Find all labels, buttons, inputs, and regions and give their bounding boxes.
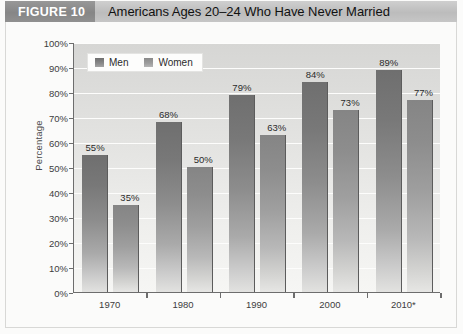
x-tick-mark xyxy=(293,293,295,298)
bar-women-2000: 73% xyxy=(333,110,359,293)
y-tick-label: 40% xyxy=(8,188,68,199)
y-tick-label: 80% xyxy=(8,88,68,99)
y-tick-mark xyxy=(69,168,73,169)
bars-layer: 55%35%68%50%79%63%84%73%89%77% xyxy=(74,43,440,292)
bar-women-1980: 50% xyxy=(187,167,213,292)
plot-wrapper: 55%35%68%50%79%63%84%73%89%77% 0%10%20%3… xyxy=(73,43,440,293)
figure-container: FIGURE 10 Americans Ages 20–24 Who Have … xyxy=(0,0,463,334)
bar-women-1990: 63% xyxy=(260,135,286,293)
x-tick-mark xyxy=(367,293,369,298)
bar-value-label: 89% xyxy=(379,57,398,68)
chart-card: Percentage 55%35%68%50%79%63%84%73%89%77… xyxy=(5,22,457,328)
bar-men-1970: 55% xyxy=(82,155,108,293)
y-tick-label: 20% xyxy=(8,238,68,249)
bar-value-label: 68% xyxy=(159,109,178,120)
y-tick-mark xyxy=(69,293,73,294)
legend-item-women: Women xyxy=(144,57,192,68)
bar-men-2010: 89% xyxy=(376,70,402,293)
bar-value-label: 63% xyxy=(267,122,286,133)
y-tick-mark xyxy=(69,193,73,194)
bar-women-1970: 35% xyxy=(113,205,139,293)
y-tick-label: 70% xyxy=(8,113,68,124)
y-tick-label: 50% xyxy=(8,163,68,174)
plot-area: 55%35%68%50%79%63%84%73%89%77% xyxy=(73,43,440,293)
y-tick-label: 10% xyxy=(8,263,68,274)
x-tick-label: 1980 xyxy=(148,299,218,310)
y-tick-label: 90% xyxy=(8,63,68,74)
x-tick-label: 1970 xyxy=(75,299,145,310)
y-tick-label: 100% xyxy=(8,38,68,49)
y-tick-mark xyxy=(69,268,73,269)
y-tick-label: 30% xyxy=(8,213,68,224)
y-tick-mark xyxy=(69,118,73,119)
x-tick-mark xyxy=(440,293,442,298)
bar-value-label: 84% xyxy=(306,69,325,80)
women-swatch-icon xyxy=(144,58,153,67)
x-tick-mark xyxy=(220,293,222,298)
y-tick-mark xyxy=(69,68,73,69)
bar-men-2000: 84% xyxy=(302,82,328,292)
figure-number-tag: FIGURE 10 xyxy=(5,1,95,22)
bar-women-2010: 77% xyxy=(407,100,433,293)
y-tick-mark xyxy=(69,243,73,244)
legend-label-women: Women xyxy=(158,57,192,68)
x-tick-label: 1990 xyxy=(222,299,292,310)
legend-label-men: Men xyxy=(109,57,128,68)
figure-title: Americans Ages 20–24 Who Have Never Marr… xyxy=(95,1,457,22)
legend-item-men: Men xyxy=(95,57,128,68)
y-tick-mark xyxy=(69,143,73,144)
y-tick-mark xyxy=(69,43,73,44)
bar-men-1990: 79% xyxy=(229,95,255,293)
figure-title-band: FIGURE 10 Americans Ages 20–24 Who Have … xyxy=(5,1,457,22)
bar-value-label: 77% xyxy=(414,87,433,98)
chart-legend: Men Women xyxy=(87,53,203,72)
bar-value-label: 55% xyxy=(86,142,105,153)
men-swatch-icon xyxy=(95,58,104,67)
bar-value-label: 50% xyxy=(194,154,213,165)
bar-men-1980: 68% xyxy=(156,122,182,292)
y-tick-label: 60% xyxy=(8,138,68,149)
y-tick-mark xyxy=(69,218,73,219)
x-tick-mark xyxy=(146,293,148,298)
y-tick-mark xyxy=(69,93,73,94)
y-tick-label: 0% xyxy=(8,288,68,299)
bar-value-label: 35% xyxy=(120,192,139,203)
x-tick-label: 2000 xyxy=(295,299,365,310)
bar-value-label: 79% xyxy=(232,82,251,93)
bar-value-label: 73% xyxy=(341,97,360,108)
x-tick-label: 2010* xyxy=(368,299,438,310)
